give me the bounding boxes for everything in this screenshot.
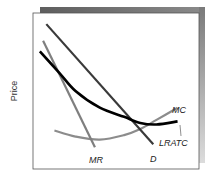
mc-label: MC — [172, 105, 186, 115]
mr-label: MR — [89, 155, 103, 165]
economics-diagram: Price MC LRATC D MR — [0, 0, 207, 181]
d-label: D — [150, 154, 157, 164]
lratc-label: LRATC — [159, 138, 188, 148]
y-axis-label: Price — [9, 81, 19, 102]
frame-shadow-right — [199, 7, 205, 163]
